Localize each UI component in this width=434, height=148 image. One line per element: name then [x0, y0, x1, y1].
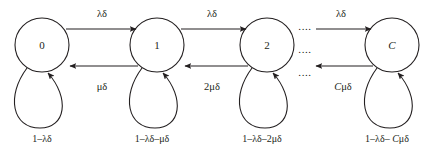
state-label-0: 0 [39, 39, 45, 51]
self-loop-label-state-2: 1–λδ–2μδ [242, 133, 282, 144]
edge-label-lambda-delta-1-2: λδ [207, 8, 217, 19]
state-label-2: 2 [264, 39, 270, 51]
edge-label-Cmu-delta-suffix: μδ [341, 81, 352, 92]
self-loop-label-state-1: 1–λδ–μδ [135, 133, 170, 144]
state-transition-diagram-canvas: 0 1 2 C λδ λδ λδ μδ 2μδ Cμδ .... .... ..… [0, 0, 434, 148]
ellipsis-dots-bottom: .... [298, 66, 311, 78]
self-loop-state-0 [14, 68, 62, 128]
markov-chain-diagram: 0 1 2 C λδ λδ λδ μδ 2μδ Cμδ .... .... ..… [0, 0, 434, 148]
edge-label-mu-delta-1-0: μδ [97, 81, 108, 92]
self-loop-state-2 [239, 68, 287, 128]
edge-label-Cmu-delta-from-C: Cμδ [334, 81, 352, 92]
state-label-C: C [388, 39, 396, 51]
self-loop-label-state-0: 1–λδ [32, 133, 52, 144]
edge-label-lambda-delta-to-C: λδ [336, 8, 346, 19]
self-loop-label-state-C: 1–λδ– Cμδ [365, 133, 409, 144]
ellipsis-dots-middle: .... [298, 43, 311, 55]
self-loop-state-C [364, 68, 412, 128]
edge-label-2mu-delta-2-1: 2μδ [204, 81, 220, 92]
state-label-1: 1 [154, 39, 160, 51]
ellipsis-dots-top: .... [298, 20, 311, 32]
self-loop-label-C-suffix: μδ [399, 133, 409, 144]
self-loop-state-1 [129, 68, 177, 128]
self-loop-label-C-prefix: 1–λδ– [365, 133, 392, 144]
edge-label-lambda-delta-0-1: λδ [97, 8, 107, 19]
